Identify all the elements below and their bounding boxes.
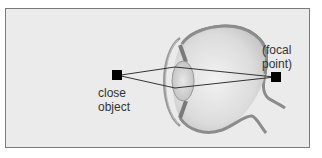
close-object-label: close object bbox=[98, 86, 144, 114]
label-line: (focal bbox=[262, 43, 302, 57]
close-object-marker bbox=[112, 70, 122, 80]
label-line: object bbox=[98, 100, 144, 114]
focal-point-marker bbox=[271, 72, 281, 82]
focal-point-label: (focal point) bbox=[262, 43, 302, 71]
eye-diagram bbox=[0, 0, 322, 158]
label-line: close bbox=[98, 86, 144, 100]
label-line: point) bbox=[262, 57, 302, 71]
